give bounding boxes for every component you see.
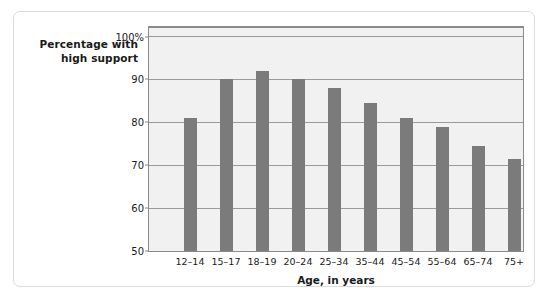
x-tick-label: 25–34 [320, 256, 349, 267]
y-tick-label-60: 60 [131, 203, 144, 214]
figure-card: Percentage with high support 50607080901… [13, 11, 535, 287]
y-tick-mark-100 [145, 36, 149, 37]
y-tick-mark-60 [145, 208, 149, 209]
x-tick-label: 20–24 [284, 256, 313, 267]
x-axis-title: Age, in years [148, 274, 524, 286]
x-tick-label: 18–19 [248, 256, 277, 267]
y-tick-label-70: 70 [131, 160, 144, 171]
bar [184, 118, 197, 251]
bar [256, 71, 269, 251]
y-tick-label-90: 90 [131, 74, 144, 85]
bar [436, 127, 449, 251]
x-tick-label: 75+ [504, 256, 524, 267]
x-tick-label: 55–64 [428, 256, 457, 267]
y-tick-label-100: 100% [115, 31, 144, 42]
y-tick-mark-90 [145, 79, 149, 80]
bar [472, 146, 485, 251]
bar [364, 103, 377, 251]
y-tick-label-80: 80 [131, 117, 144, 128]
gridline-100 [149, 36, 523, 37]
y-axis-title-line2: high support [22, 52, 138, 66]
bar [328, 88, 341, 251]
y-tick-mark-50 [145, 251, 149, 252]
bar [400, 118, 413, 251]
x-tick-label: 12–14 [176, 256, 205, 267]
gridline-90 [149, 79, 523, 80]
x-tick-label: 15–17 [212, 256, 241, 267]
x-tick-label: 65–74 [464, 256, 493, 267]
x-tick-label: 35–44 [356, 256, 385, 267]
bar [508, 159, 521, 251]
y-tick-mark-70 [145, 165, 149, 166]
y-tick-label-50: 50 [131, 246, 144, 257]
x-tick-label: 45–54 [392, 256, 421, 267]
bar [292, 79, 305, 251]
bar [220, 79, 233, 251]
plot-area: 5060708090100%12–1415–1718–1920–2425–343… [148, 26, 524, 252]
y-tick-mark-80 [145, 122, 149, 123]
